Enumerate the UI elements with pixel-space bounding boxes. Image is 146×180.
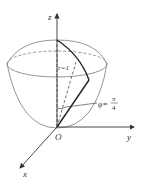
origin-label: O [55, 132, 62, 142]
angle-label: φ= [98, 100, 108, 109]
z-axis-label: z [47, 12, 52, 22]
x-axis [20, 127, 57, 168]
radius-label: r=1 [58, 64, 69, 72]
paraboloid-diagram: z y x O r=1 φ= π 4 [0, 0, 146, 180]
y-axis-label: y [126, 132, 131, 142]
angle-denominator: 4 [112, 104, 116, 112]
angle-arc [57, 107, 66, 109]
x-axis-label: x [22, 169, 27, 179]
axes [20, 14, 134, 168]
angle-numerator: π [112, 95, 116, 103]
